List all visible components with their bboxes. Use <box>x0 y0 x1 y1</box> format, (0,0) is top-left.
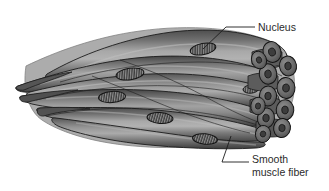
nucleus-label: Nucleus <box>258 21 296 33</box>
smooth-muscle-fiber-label-line-2: muscle fiber <box>252 166 309 178</box>
diagram-canvas: Nucleus Smooth muscle fiber <box>0 0 329 191</box>
smooth-muscle-fiber-label-line-1: Smooth <box>252 153 288 165</box>
smooth-muscle-fiber-diagram: Nucleus Smooth muscle fiber <box>0 0 329 191</box>
